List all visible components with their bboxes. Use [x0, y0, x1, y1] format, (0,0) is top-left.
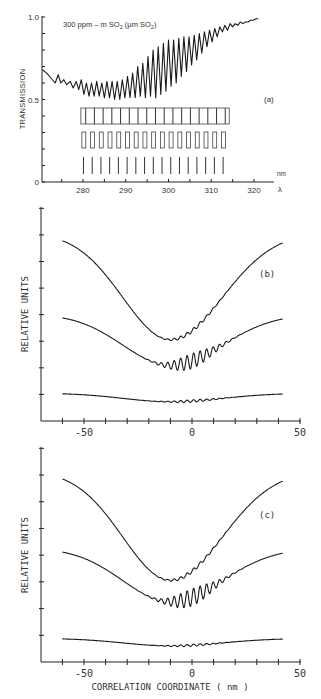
panel-a-label: (a)	[264, 95, 274, 104]
panel-a-slit-masks	[81, 108, 229, 174]
correlation-curve-middle	[62, 318, 282, 370]
panel-c-xtick-0: 0	[189, 668, 195, 679]
correlation-curve-lower	[62, 639, 282, 647]
panel-b-xtick-50: 50	[294, 427, 306, 438]
slit	[160, 132, 164, 148]
slit	[152, 132, 156, 148]
panel-c-xtick-50: 50	[294, 668, 306, 679]
slit	[213, 132, 217, 148]
slit	[195, 132, 199, 148]
panel-c: RELATIVE UNITS (c) -50 0 50 CORRELATION …	[20, 447, 306, 692]
slit	[204, 132, 208, 148]
panel-b-curves	[62, 241, 282, 403]
slit	[91, 132, 95, 148]
x-tick-label: 290	[119, 186, 133, 195]
slit	[99, 132, 103, 148]
panel-a: 1.0 0.5 0 TRANSMISSION 300 ppm – m SO2 (…	[18, 13, 286, 195]
panel-b-ylabel: RELATIVE UNITS	[20, 276, 30, 352]
slit	[178, 132, 182, 148]
panel-a-ytick-bottom: 0	[35, 178, 40, 187]
slit	[82, 132, 86, 148]
panel-a-ytick-top: 1.0	[28, 13, 40, 22]
panel-a-ylabel: TRANSMISSION	[18, 69, 27, 130]
panel-c-curves	[62, 479, 282, 647]
panel-b-xtick-neg50: -50	[75, 427, 93, 438]
correlation-curve-upper	[62, 241, 282, 341]
correlation-curve-upper	[62, 479, 282, 581]
panel-b-ticks	[39, 208, 300, 424]
x-tick-label: 320	[247, 186, 261, 195]
panel-c-label: (c)	[259, 510, 275, 520]
panel-c-ylabel: RELATIVE UNITS	[20, 517, 30, 593]
panel-a-transmission-curve	[42, 19, 258, 100]
slit	[169, 132, 173, 148]
slit	[221, 132, 225, 148]
x-tick-label: 280	[76, 186, 90, 195]
slit	[108, 132, 112, 148]
panel-a-x-tick-labels: 280290300310320	[76, 186, 261, 195]
slit	[117, 132, 121, 148]
slit	[143, 132, 147, 148]
slit	[187, 132, 191, 148]
panel-b: RELATIVE UNITS (b) -50 0 50	[20, 207, 306, 438]
panel-a-title: 300 ppm – m SO2 (µm SO2)	[63, 20, 157, 30]
panel-c-xtick-neg50: -50	[75, 668, 93, 679]
panel-a-ytick-mid: 0.5	[28, 96, 40, 105]
panel-a-x-unit: nm	[277, 170, 286, 177]
figure: 1.0 0.5 0 TRANSMISSION 300 ppm – m SO2 (…	[0, 0, 321, 699]
panel-b-label: (b)	[259, 269, 275, 279]
slit	[125, 132, 129, 148]
correlation-curve-lower	[62, 394, 282, 403]
panel-b-xtick-0: 0	[189, 427, 195, 438]
panel-a-x-symbol: λ	[278, 185, 282, 194]
slit	[134, 132, 138, 148]
x-tick-label: 300	[162, 186, 176, 195]
x-tick-label: 310	[205, 186, 219, 195]
panel-c-xlabel: CORRELATION COORDINATE ( nm )	[91, 682, 248, 692]
